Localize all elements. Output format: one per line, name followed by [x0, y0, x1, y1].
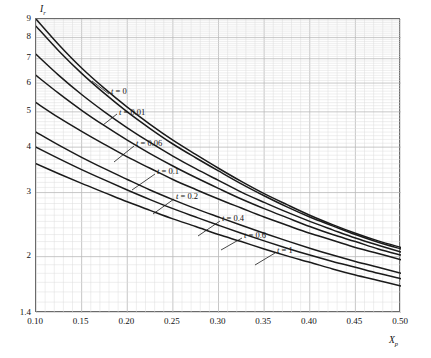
x-axis-title: Xp [389, 335, 398, 347]
y-tick-label: 3 [5, 187, 31, 196]
x-tick-label: 0.10 [15, 317, 55, 326]
y-tick-label: 6 [5, 78, 31, 87]
curve-label: t = 0.6 [244, 231, 266, 240]
y-axis-title: Ir [40, 4, 46, 16]
y-tick-label: 2 [5, 251, 31, 260]
x-tick-label: 0.40 [289, 317, 329, 326]
chart-figure: Ir 1.423456789 0.100.150.200.250.300.350… [0, 0, 431, 358]
y-tick-label: 7 [5, 53, 31, 62]
x-tick-label: 0.25 [152, 317, 192, 326]
x-tick-label: 0.50 [380, 317, 420, 326]
y-tick-label: 4 [5, 142, 31, 151]
curve-label: t = 1 [277, 246, 293, 255]
x-tick-label: 0.15 [61, 317, 101, 326]
curve-label: t = 0.4 [222, 214, 244, 223]
x-tick-label: 0.30 [198, 317, 238, 326]
leader-lines [35, 18, 400, 312]
curve-label: t = 0.01 [119, 108, 145, 117]
curve-label: t = 0.1 [157, 167, 179, 176]
curve-label: t = 0.2 [176, 192, 198, 201]
x-tick-label: 0.20 [106, 317, 146, 326]
y-tick-label: 5 [5, 106, 31, 115]
x-tick-label: 0.35 [243, 317, 283, 326]
y-tick-label: 8 [5, 32, 31, 41]
curve-label: t = 0.06 [136, 139, 162, 148]
curve-label: t = 0 [111, 87, 127, 96]
y-tick-label: 9 [5, 14, 31, 23]
x-tick-label: 0.45 [334, 317, 374, 326]
